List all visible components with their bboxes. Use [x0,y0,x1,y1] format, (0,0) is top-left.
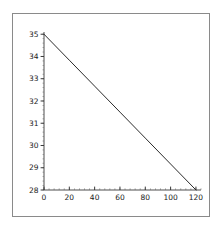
series-line-0 [44,34,196,190]
y-tick-label: 34 [29,52,39,61]
y-tick-label: 31 [29,119,39,128]
x-tick-label: 80 [141,193,151,202]
y-tick-label: 28 [29,186,39,195]
y-tick-labels: 2829303132333435 [29,30,39,195]
x-tick-label: 120 [189,193,204,202]
y-tick-label: 30 [29,141,39,150]
x-tick-label: 60 [115,193,125,202]
y-tick-label: 29 [29,163,39,172]
x-tick-label: 40 [90,193,100,202]
x-tick-labels: 020406080100120 [42,193,204,202]
y-tick-label: 35 [29,30,39,39]
data-series-group [44,34,196,190]
figure-frame: 2829303132333435 020406080100120 [12,13,210,217]
plot-canvas: 2829303132333435 020406080100120 [13,14,211,218]
y-tick-label: 33 [29,74,39,83]
y-tick-label: 32 [29,97,39,106]
x-tick-label: 20 [65,193,75,202]
x-tick-label: 100 [163,193,178,202]
chart-screenshot: 2829303132333435 020406080100120 [0,0,223,233]
x-tick-label: 0 [42,193,47,202]
y-axis [41,32,44,190]
x-axis [44,187,201,190]
